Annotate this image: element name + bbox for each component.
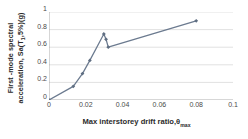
x-tick-label: 0.04 bbox=[116, 101, 130, 108]
x-axis-title: Max interstorey drift ratio,θmax bbox=[34, 117, 239, 128]
y-tick-label: 0.2 bbox=[37, 75, 47, 82]
y-axis-title-line2-sub: 1 bbox=[20, 37, 26, 40]
x-axis-title-main: Max interstorey drift ratio,θ bbox=[82, 117, 180, 126]
chart-svg bbox=[49, 12, 233, 100]
y-tick-label: 0.6 bbox=[37, 40, 47, 47]
y-axis-tick-labels: 00.20.40.60.81 bbox=[30, 8, 47, 100]
data-point-marker bbox=[194, 19, 198, 23]
x-tick-label: 0 bbox=[47, 101, 51, 108]
data-point-marker bbox=[104, 37, 108, 41]
x-tick-label: 0.08 bbox=[189, 101, 203, 108]
data-point-marker bbox=[106, 45, 110, 49]
gridlines bbox=[49, 12, 233, 100]
x-axis-tick-labels: 00.020.040.060.080.1 bbox=[49, 101, 233, 113]
y-axis-title-line2: acceleration, Sa(T1,5%)(g) bbox=[15, 13, 28, 104]
y-tick-label: 0.4 bbox=[37, 57, 47, 64]
y-tick-label: 0 bbox=[43, 93, 47, 100]
x-axis-title-sub: max bbox=[180, 122, 190, 128]
series-line-pushover bbox=[49, 21, 196, 100]
y-tick-label: 1 bbox=[43, 5, 47, 12]
chart-container: First -mode spectral acceleration, Sa(T1… bbox=[0, 0, 248, 139]
y-axis-title: First -mode spectral acceleration, Sa(T1… bbox=[0, 0, 34, 116]
y-tick-label: 0.8 bbox=[37, 22, 47, 29]
y-axis-title-line2-rest: ,5%)(g) bbox=[15, 13, 24, 38]
y-axis-title-line2-main: acceleration, Sa(T bbox=[15, 40, 24, 103]
x-tick-label: 0.06 bbox=[153, 101, 167, 108]
x-tick-label: 0.1 bbox=[228, 101, 238, 108]
plot-area bbox=[49, 12, 233, 100]
x-tick-label: 0.02 bbox=[79, 101, 93, 108]
y-axis-title-line1: First -mode spectral bbox=[6, 13, 16, 104]
